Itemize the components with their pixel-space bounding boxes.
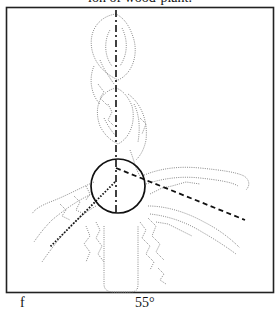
right-branch-angle-line <box>116 168 245 220</box>
caption-bottom-left: f <box>20 296 25 310</box>
branch-point-circle <box>91 159 145 213</box>
left-branch-angle-line <box>50 182 115 247</box>
figure-frame <box>7 8 274 293</box>
plant-outline <box>32 14 249 292</box>
caption-bottom-mid: 55° <box>135 296 155 310</box>
